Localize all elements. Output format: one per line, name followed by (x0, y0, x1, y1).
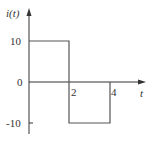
y-tick-label-0: 0 (17, 76, 23, 88)
y-axis-label: i(t) (6, 7, 20, 20)
x-tick-label-2: 2 (71, 86, 77, 98)
chart: i(t) t 10 0 -10 2 4 (0, 0, 156, 142)
x-axis-label: t (140, 87, 144, 99)
y-axis-arrow-icon (27, 8, 32, 16)
y-tick-label-10: 10 (10, 35, 22, 47)
x-axis-arrow-icon (138, 80, 146, 85)
x-tick-label-4: 4 (111, 86, 117, 98)
y-tick-label-neg10: -10 (6, 117, 21, 129)
